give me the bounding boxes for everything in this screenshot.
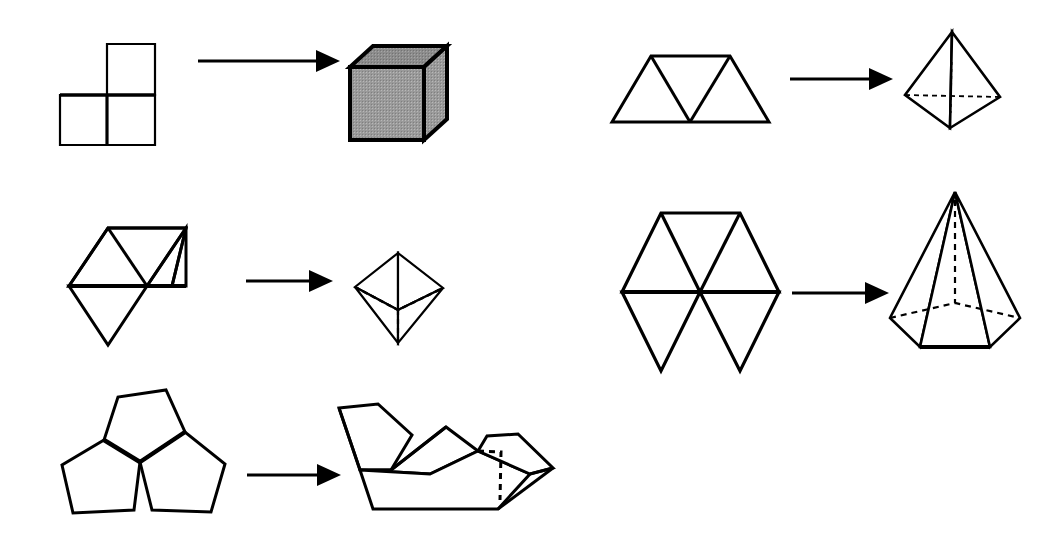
net-trapezoid-outline: [612, 56, 769, 122]
six-triangle-hexagon-net: [622, 213, 779, 371]
panel-4-arrow: [792, 282, 889, 304]
arrow-head: [317, 464, 341, 486]
panel-2-group: [612, 32, 1000, 128]
panel-3-group: [69, 228, 443, 345]
panel-3-arrow: [246, 270, 333, 292]
tetrahedron-solid: [905, 32, 1000, 128]
tetra-right-face: [950, 32, 1000, 128]
net-fold-edge-a: [108, 228, 147, 286]
net-fold-edge-left: [104, 440, 140, 462]
panel-1-arrow: [198, 50, 340, 72]
three-square-L-net: [60, 44, 155, 145]
panel-1-group: [60, 44, 447, 145]
arrow-head: [316, 50, 340, 72]
net-upper-band-outline: [622, 213, 779, 292]
panel-5-group: [62, 390, 553, 513]
three-triangle-trapezoid-net: [612, 56, 769, 122]
folded-pentagon-cluster-solid: [339, 404, 553, 509]
net-triangle-bottom: [69, 286, 147, 345]
net-square-top: [107, 44, 155, 95]
arrow-head: [309, 270, 333, 292]
cube-solid: [350, 46, 447, 140]
net-fold-edge-b: [700, 213, 740, 292]
net-triangle-lower-right: [700, 292, 779, 371]
arrow-head: [865, 282, 889, 304]
four-triangle-net: [69, 228, 186, 345]
tetra-left-face: [905, 32, 952, 128]
net-square-bottom-right: [107, 95, 155, 145]
panel-5-arrow: [247, 464, 341, 486]
figure-canvas: Polygon nets folding into three-dimensio…: [0, 0, 1058, 542]
cube-front-face: [350, 67, 424, 140]
net-fold-edge-right: [690, 56, 730, 122]
net-pentagon-top: [104, 390, 185, 462]
three-pentagon-net: [62, 390, 225, 513]
net-square-bottom-left: [60, 95, 107, 145]
net-fold-edge-left: [651, 56, 690, 122]
hexagonal-pyramid-solid: [890, 192, 1020, 347]
net-triangle-lower-left: [622, 292, 700, 371]
triangular-bipyramid-solid: [355, 253, 443, 343]
nets-to-solids-figure: [0, 0, 1058, 542]
panel-4-group: [622, 192, 1020, 371]
panel-2-arrow: [790, 68, 893, 90]
net-pentagon-right: [140, 432, 225, 512]
net-fold-edge-right: [140, 432, 185, 462]
net-pentagon-left: [62, 440, 140, 513]
arrow-head: [869, 68, 893, 90]
net-fold-edge-a: [661, 213, 700, 292]
